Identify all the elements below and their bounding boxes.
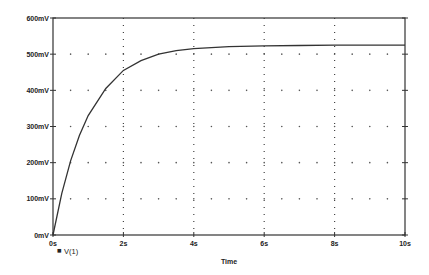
legend: ■ V(1) (57, 246, 79, 256)
x-axis: 0s2s4s6s8s10s (49, 232, 411, 247)
series-v1-line (53, 45, 405, 235)
x-tick-label: 2s (120, 240, 128, 247)
x-tick-label: 4s (190, 240, 198, 247)
y-tick-label: 500mV (26, 51, 49, 58)
line-chart: 0mV100mV200mV300mV400mV500mV600mV 0s2s4s… (0, 0, 429, 275)
y-tick-label: 100mV (26, 195, 49, 202)
x-tick-label: 10s (399, 240, 411, 247)
x-tick-label: 8s (331, 240, 339, 247)
x-axis-title: Time (221, 258, 237, 265)
y-tick-label: 0mV (34, 232, 49, 239)
legend-label: V(1) (64, 247, 79, 256)
legend-marker-icon: ■ (57, 246, 62, 255)
y-tick-label: 300mV (26, 123, 49, 130)
y-tick-label: 200mV (26, 159, 49, 166)
x-tick-label: 6s (260, 240, 268, 247)
y-tick-label: 400mV (26, 87, 49, 94)
x-tick-label: 0s (49, 240, 57, 247)
grid (70, 18, 388, 235)
y-tick-label: 600mV (26, 15, 49, 22)
